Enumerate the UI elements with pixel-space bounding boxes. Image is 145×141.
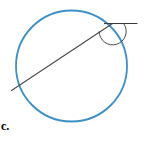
geometry-figure: c. (0, 0, 145, 141)
part-label: c. (1, 120, 9, 133)
angle-arc (99, 24, 126, 45)
circle (16, 11, 127, 122)
geometry-canvas (0, 0, 145, 141)
